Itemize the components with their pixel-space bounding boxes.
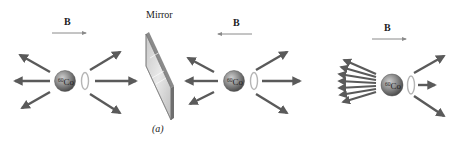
electron-emission-arrows-backward xyxy=(339,60,376,102)
figure-caption: (a) xyxy=(152,123,164,135)
panel-middle: B 60Co xyxy=(186,17,300,113)
field-label-b: B xyxy=(384,22,391,33)
spin-ring-icon xyxy=(82,73,89,90)
parity-violation-diagram: B 60Co Mirror (a) B xyxy=(0,0,461,142)
field-label-b: B xyxy=(233,17,240,28)
electron-emission-arrows-forward xyxy=(414,56,444,116)
spin-ring-icon xyxy=(408,76,415,94)
panel-left: B 60Co xyxy=(15,16,136,113)
panel-right: B 60Co xyxy=(339,22,444,116)
spin-ring-icon xyxy=(251,73,258,90)
mirror: Mirror (a) xyxy=(146,9,174,135)
mirror-label: Mirror xyxy=(146,9,173,20)
field-label-b: B xyxy=(64,16,71,27)
mirror-side-edge xyxy=(171,86,174,120)
